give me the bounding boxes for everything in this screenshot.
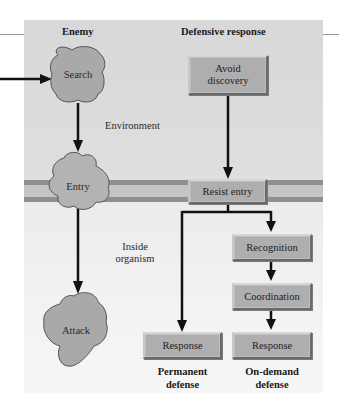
svg-text:Attack: Attack (62, 325, 91, 336)
recognition-box: Recognition (232, 234, 312, 261)
avoid-discovery-box: Avoid discovery (188, 55, 268, 95)
arrow-entry-to-attack (73, 208, 83, 294)
permanent-defense-label: Permanent defense (143, 365, 222, 391)
svg-text:Entry: Entry (66, 181, 90, 192)
permanent-defense-line1: Permanent (143, 365, 222, 378)
entry-blob: Entry (49, 152, 109, 209)
avoid-discovery-line2: discovery (208, 75, 249, 87)
coordination-box: Coordination (232, 283, 312, 310)
avoid-discovery-line1: Avoid (215, 63, 240, 75)
arrow-recognition-to-coordination (266, 261, 276, 281)
on-demand-response-box: Response (232, 332, 312, 359)
incoming-arrow (0, 74, 52, 84)
on-demand-defense-label: On-demand defense (232, 365, 312, 391)
permanent-response-box: Response (143, 332, 222, 359)
arrow-coordination-to-response (266, 310, 276, 330)
arrow-avoid-to-resist (223, 95, 233, 179)
on-demand-defense-line1: On-demand (232, 365, 312, 378)
on-demand-defense-line2: defense (232, 378, 312, 391)
arrow-search-to-entry (73, 103, 83, 152)
permanent-defense-line2: defense (143, 378, 222, 391)
resist-entry-box: Resist entry (188, 179, 267, 204)
attack-blob: Attack (44, 293, 108, 367)
branch-resist-entry (177, 203, 276, 332)
svg-text:Search: Search (64, 69, 93, 80)
search-blob: Search (50, 47, 104, 102)
